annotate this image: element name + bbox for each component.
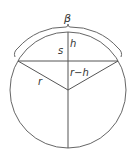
label-r: r [38,76,43,87]
label-s: s [58,45,63,56]
label-h: h [70,38,76,49]
radius-left [18,61,68,90]
label-r-minus-h: r−h [70,67,89,78]
circle-segment-diagram: β s h r r−h [0,0,131,158]
diagram-canvas: β s h r r−h [0,0,131,158]
label-beta: β [63,12,71,25]
